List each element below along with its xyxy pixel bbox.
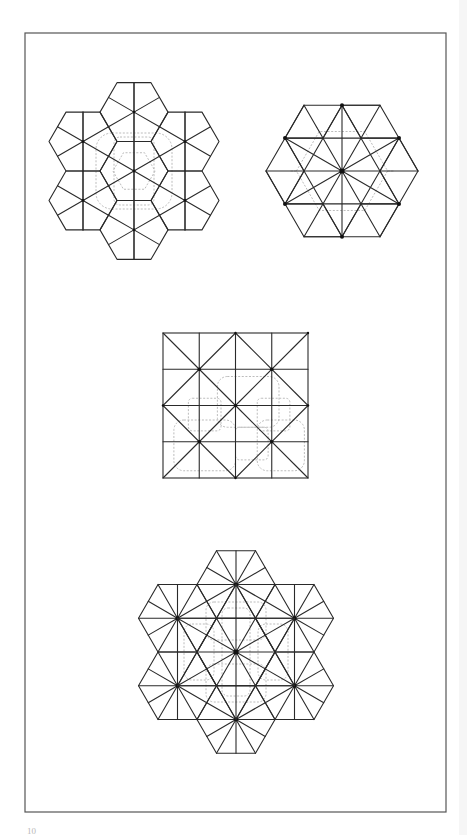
figure-star-hexagon [266,103,418,239]
figure-triangulated-hex-cluster [139,551,334,754]
figure-pinwheel-hex-cluster [49,83,219,260]
diagram-canvas [0,0,467,835]
figure-square-grid [162,332,309,479]
page-number: 10 [27,826,36,835]
